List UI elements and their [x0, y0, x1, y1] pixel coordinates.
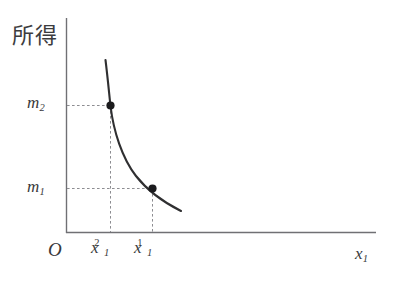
y-tick-m2-sub: 2 [39, 102, 44, 113]
x-tick-x1-1-sup: 1 [137, 237, 142, 248]
data-point-lower [148, 184, 156, 192]
data-point-upper [106, 101, 114, 109]
y-tick-label-m2: m2 [27, 94, 45, 111]
x-tick-x1-2-sup: 2 [94, 237, 99, 248]
x-tick-x1-2-sub: 1 [104, 247, 109, 258]
x-axis-title-base: x [355, 244, 363, 263]
origin-label: O [48, 240, 62, 259]
x-tick-label-x1-1: x11 [134, 239, 152, 256]
y-tick-m2-base: m [27, 93, 39, 112]
y-axis-title: 所得 [12, 25, 57, 47]
y-tick-label-m1: m1 [27, 178, 45, 195]
x-tick-label-x1-2: x21 [91, 239, 109, 256]
x-axis-title: x1 [355, 245, 368, 262]
x-tick-x1-1-sub: 1 [147, 247, 152, 258]
y-tick-m1-base: m [27, 177, 39, 196]
engel-curve-figure: 所得 x1 O m2 m1 x21 x11 [0, 0, 394, 283]
x-axis-title-sub: 1 [363, 253, 368, 264]
y-tick-m1-sub: 1 [39, 186, 44, 197]
